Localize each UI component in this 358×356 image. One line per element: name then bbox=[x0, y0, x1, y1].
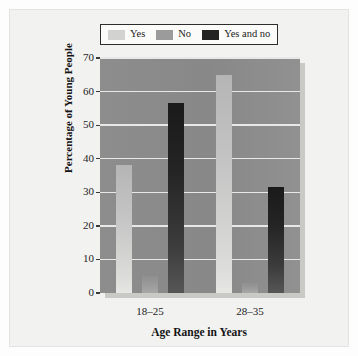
x-tick-label: 28–35 bbox=[215, 305, 285, 317]
bar-yes-and-no bbox=[268, 187, 284, 293]
x-axis-title: Age Range in Years bbox=[69, 326, 329, 338]
y-tick-label: 60 bbox=[68, 85, 94, 97]
legend-swatch-yes bbox=[108, 30, 125, 40]
y-tick-label: 10 bbox=[68, 252, 94, 264]
plot-area bbox=[100, 58, 300, 293]
bars-layer bbox=[100, 58, 300, 293]
chart-legend: Yes No Yes and no bbox=[100, 24, 278, 45]
legend-item-yes: Yes bbox=[108, 29, 145, 40]
y-tick-mark bbox=[96, 192, 100, 193]
x-tick-label: 18–25 bbox=[115, 305, 185, 317]
bar-chart-figure: Yes No Yes and no Percentage of Young Pe… bbox=[0, 0, 358, 356]
y-tick-mark bbox=[96, 259, 100, 260]
y-tick-mark bbox=[96, 292, 100, 293]
legend-item-no: No bbox=[156, 29, 191, 40]
legend-label-yes-and-no: Yes and no bbox=[224, 29, 270, 40]
y-tick-label: 50 bbox=[68, 118, 94, 130]
y-tick-label: 0 bbox=[68, 286, 94, 298]
bar-no bbox=[142, 276, 158, 293]
y-tick-mark bbox=[96, 158, 100, 159]
bar-yes bbox=[116, 165, 132, 293]
legend-swatch-no bbox=[156, 30, 173, 40]
legend-item-yes-and-no: Yes and no bbox=[202, 29, 270, 40]
legend-label-yes: Yes bbox=[130, 29, 145, 40]
y-tick-mark bbox=[96, 91, 100, 92]
y-tick-mark bbox=[96, 225, 100, 226]
y-tick-label: 20 bbox=[68, 219, 94, 231]
y-tick-label: 70 bbox=[68, 51, 94, 63]
bar-yes bbox=[216, 75, 232, 293]
y-tick-mark bbox=[96, 125, 100, 126]
y-tick-label: 40 bbox=[68, 152, 94, 164]
bar-no bbox=[242, 283, 258, 293]
legend-swatch-yes-and-no bbox=[202, 30, 219, 40]
y-tick-mark bbox=[96, 57, 100, 58]
legend-label-no: No bbox=[178, 29, 191, 40]
y-tick-label: 30 bbox=[68, 185, 94, 197]
bar-yes-and-no bbox=[168, 103, 184, 293]
